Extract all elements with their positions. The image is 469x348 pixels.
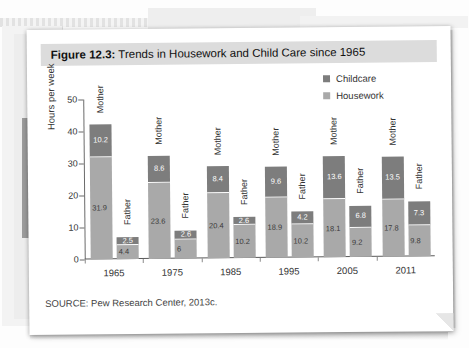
bar-father[interactable]: 2.66Father xyxy=(175,231,197,259)
bar-segment-housework[interactable]: 17.8 xyxy=(382,199,405,256)
bar-value-childcare: 10.2 xyxy=(93,137,108,145)
bar-segment-housework[interactable]: 4.4 xyxy=(117,245,139,259)
y-tick-label: 30 xyxy=(58,160,78,169)
legend-swatch-childcare xyxy=(323,75,330,82)
bar-mother[interactable]: 13.618.1Mother xyxy=(323,156,346,258)
bar-segment-housework[interactable]: 9.8 xyxy=(408,225,430,257)
bar-groups: 196510.231.9Mother2.54.4Father19758.623.… xyxy=(83,96,433,99)
bar-caption-father: Father xyxy=(355,168,365,194)
bar-segment-childcare[interactable]: 8.4 xyxy=(207,166,229,193)
bar-value-housework: 9.8 xyxy=(410,237,421,245)
bar-value-childcare: 13.6 xyxy=(327,173,342,181)
y-tick-label: 20 xyxy=(58,192,78,201)
bar-caption-mother: Mother xyxy=(212,127,222,155)
x-tick-label: 2005 xyxy=(318,265,376,277)
bar-caption-father: Father xyxy=(122,199,132,225)
legend-item-childcare: Childcare xyxy=(323,70,433,85)
y-tick-label: 0 xyxy=(59,256,79,265)
source-note: SOURCE: Pew Research Center, 2013c. xyxy=(45,296,217,309)
x-tick-label: 1995 xyxy=(260,265,318,277)
bar-father[interactable]: 6.89.2Father xyxy=(350,206,372,257)
bar-segment-childcare[interactable]: 13.5 xyxy=(381,156,403,199)
chart: Childcare Housework Hours per week 01020… xyxy=(41,70,441,286)
bar-value-childcare: 8.6 xyxy=(154,165,165,173)
bar-mother[interactable]: 13.517.8Mother xyxy=(381,156,404,256)
bar-value-housework: 6 xyxy=(177,245,181,253)
bar-segment-childcare[interactable]: 9.6 xyxy=(265,166,287,197)
bar-segment-housework[interactable]: 9.2 xyxy=(350,227,372,257)
bar-value-childcare: 7.3 xyxy=(414,209,425,217)
bar-value-housework: 18.9 xyxy=(267,224,282,232)
bar-value-housework: 10.2 xyxy=(235,238,250,246)
bar-caption-mother: Mother xyxy=(270,127,280,155)
bar-caption-father: Father xyxy=(414,164,424,190)
x-tick-label: 2011 xyxy=(376,264,434,276)
bar-group: 19858.420.4Mother2.610.2Father xyxy=(200,98,260,259)
bar-group: 200513.618.1Mother6.89.2Father xyxy=(317,97,377,258)
x-tick xyxy=(260,258,261,262)
figure-title-bar: Figure 12.3: Trends in Housework and Chi… xyxy=(41,40,437,66)
bar-caption-father: Father xyxy=(297,173,307,199)
bar-father[interactable]: 4.210.2Father xyxy=(291,211,313,257)
legend-label-childcare: Childcare xyxy=(336,72,376,83)
bar-mother[interactable]: 10.231.9Mother xyxy=(89,125,112,260)
page-corner-fold-icon xyxy=(435,313,453,331)
bar-group: 196510.231.9Mother2.54.4Father xyxy=(83,99,143,260)
bar-father[interactable]: 7.39.8Father xyxy=(408,201,431,256)
bar-segment-childcare[interactable]: 2.5 xyxy=(117,237,139,245)
bar-caption-father: Father xyxy=(180,193,190,219)
bar-value-childcare: 6.8 xyxy=(355,212,366,220)
bar-group: 201113.517.8Mother7.39.8Father xyxy=(375,96,435,257)
bar-segment-childcare[interactable]: 6.8 xyxy=(350,206,372,228)
bar-value-housework: 18.1 xyxy=(326,225,341,233)
bar-value-childcare: 4.2 xyxy=(297,214,308,222)
x-tick xyxy=(201,258,202,262)
textbook-page: Figure 12.3: Trends in Housework and Chi… xyxy=(27,26,454,335)
bar-value-housework: 9.2 xyxy=(352,239,363,247)
bar-caption-mother: Mother xyxy=(329,117,339,145)
bar-segment-childcare[interactable]: 4.2 xyxy=(291,211,313,225)
bar-value-childcare: 2.6 xyxy=(239,217,250,225)
bar-segment-housework[interactable]: 31.9 xyxy=(90,157,113,259)
bar-segment-childcare[interactable]: 2.6 xyxy=(233,217,255,226)
bar-segment-housework[interactable]: 23.6 xyxy=(148,183,171,259)
figure-number: Figure 12.3: xyxy=(51,48,116,61)
bar-group: 19959.618.9Mother4.210.2Father xyxy=(258,97,318,258)
bar-group: 19758.623.6Mother2.66Father xyxy=(142,98,202,259)
bar-segment-childcare[interactable]: 2.6 xyxy=(175,231,197,240)
bar-segment-childcare[interactable]: 13.6 xyxy=(323,156,345,200)
bar-mother[interactable]: 8.623.6Mother xyxy=(148,156,171,259)
bar-segment-housework[interactable]: 20.4 xyxy=(207,193,230,258)
bar-value-childcare: 2.6 xyxy=(181,231,192,239)
bar-value-housework: 17.8 xyxy=(384,224,399,232)
y-tick-label: 10 xyxy=(58,224,78,233)
bar-caption-father: Father xyxy=(239,179,249,205)
bar-value-housework: 10.2 xyxy=(294,238,309,246)
bar-father[interactable]: 2.610.2Father xyxy=(233,217,255,258)
bar-caption-mother: Mother xyxy=(95,86,105,114)
bar-segment-housework[interactable]: 6 xyxy=(175,239,197,258)
bar-value-housework: 20.4 xyxy=(209,222,224,230)
bar-segment-housework[interactable]: 10.2 xyxy=(291,225,313,258)
bar-segment-housework[interactable]: 18.1 xyxy=(324,199,347,257)
x-tick-label: 1965 xyxy=(85,267,143,279)
bar-segment-childcare[interactable]: 8.6 xyxy=(148,156,170,184)
bar-father[interactable]: 2.54.4Father xyxy=(117,237,139,259)
bar-segment-childcare[interactable]: 10.2 xyxy=(89,125,111,158)
bar-caption-mother: Mother xyxy=(154,117,164,145)
bar-segment-housework[interactable]: 10.2 xyxy=(233,225,255,258)
bar-segment-childcare[interactable]: 7.3 xyxy=(408,201,430,225)
bar-mother[interactable]: 8.420.4Mother xyxy=(207,166,230,258)
x-tick-label: 1985 xyxy=(201,266,259,278)
bar-mother[interactable]: 9.618.9Mother xyxy=(265,166,288,257)
bar-value-childcare: 8.4 xyxy=(212,175,223,183)
bar-value-childcare: 9.6 xyxy=(271,178,282,186)
bar-value-childcare: 13.5 xyxy=(385,174,400,182)
bar-value-childcare: 2.5 xyxy=(122,237,133,245)
bar-segment-housework[interactable]: 18.9 xyxy=(265,197,288,258)
x-tick-label: 1975 xyxy=(143,266,201,278)
y-tick-label: 50 xyxy=(57,96,77,105)
bar-value-housework: 23.6 xyxy=(151,217,166,225)
y-axis-title: Hours per week xyxy=(45,52,57,142)
x-tick xyxy=(376,257,377,261)
